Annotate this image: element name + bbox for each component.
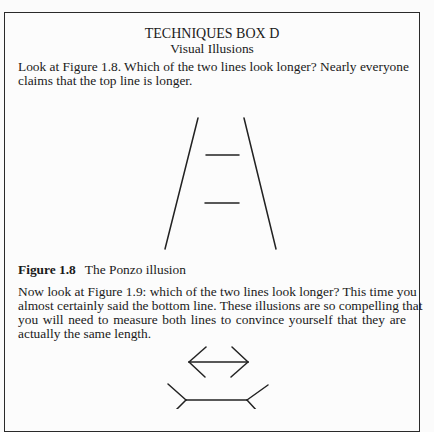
paragraph2-line-3: you will need to measure both lines to c… (18, 313, 406, 327)
paragraph2-line-2: almost certainly said the bottom line. T… (18, 299, 406, 313)
ponzo-right-rail (244, 118, 276, 249)
muller-lyer-bottom-left-fin-up (168, 384, 186, 400)
ponzo-left-rail (165, 118, 198, 249)
muller-lyer-top-right-fin-up (232, 347, 248, 362)
muller-lyer-bottom-right-fin-up (247, 385, 268, 400)
muller-lyer-illusion (168, 347, 268, 409)
muller-lyer-top-left-fin-down (189, 362, 205, 377)
muller-lyer-top-left-fin-up (189, 347, 206, 362)
muller-lyer-bottom-left-fin-down (174, 400, 186, 409)
figure-1-8-label: Figure 1.8 (18, 262, 76, 277)
muller-lyer-bottom-right-fin-down (247, 400, 258, 409)
paragraph2-line-1: Now look at Figure 1.9: which of the two… (18, 285, 406, 299)
figure-1-8-caption-text: The Ponzo illusion (85, 262, 186, 277)
figure-1-8-caption: Figure 1.8The Ponzo illusion (18, 263, 406, 277)
paragraph2-line-4: actually the same length. (18, 327, 406, 341)
ponzo-illusion (165, 118, 276, 249)
muller-lyer-top-right-fin-down (231, 362, 248, 377)
